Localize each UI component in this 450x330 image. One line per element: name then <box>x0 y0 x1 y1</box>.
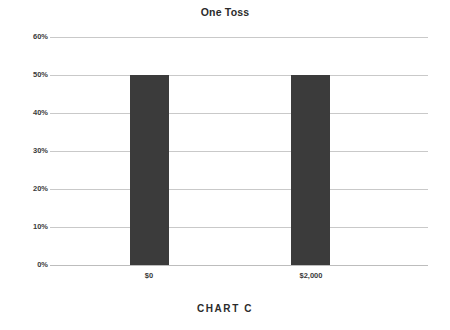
chart-caption: CHART C <box>0 303 450 314</box>
gridline-40 <box>50 113 428 114</box>
chart-title: One Toss <box>0 6 450 18</box>
y-tick-label-10: 10% <box>4 223 48 231</box>
gridline-30 <box>50 151 428 152</box>
gridline-10 <box>50 227 428 228</box>
chart-container: One Toss 60% 50% 40% 30% 20% 10% 0% $0 $… <box>0 0 450 330</box>
bar-2000[interactable] <box>291 75 330 265</box>
x-tick-label-2000: $2,000 <box>251 272 371 280</box>
bar-0[interactable] <box>130 75 169 265</box>
y-tick-label-0: 0% <box>4 261 48 269</box>
y-tick-label-20: 20% <box>4 185 48 193</box>
y-tick-label-30: 30% <box>4 147 48 155</box>
gridline-baseline-0 <box>50 265 428 266</box>
y-tick-label-40: 40% <box>4 109 48 117</box>
gridline-60 <box>50 37 428 38</box>
x-tick-label-0: $0 <box>89 272 209 280</box>
plot-area <box>50 37 428 265</box>
y-tick-label-60: 60% <box>4 33 48 41</box>
y-tick-label-50: 50% <box>4 71 48 79</box>
gridline-50 <box>50 75 428 76</box>
gridline-20 <box>50 189 428 190</box>
